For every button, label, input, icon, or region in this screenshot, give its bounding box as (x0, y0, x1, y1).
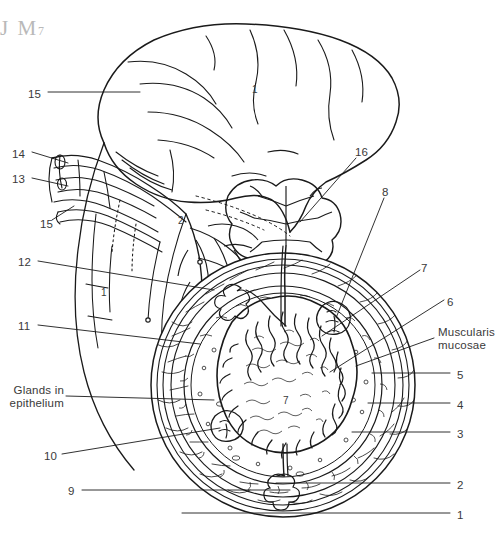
inline-label-7-lumen: 7 (283, 395, 289, 406)
label-5: 5 (457, 369, 464, 382)
mesentery-fold-group (49, 155, 186, 252)
inline-label-1-serosa: 1 (101, 287, 107, 298)
label-16: 16 (355, 146, 368, 159)
label-glands-in-epithelium: Glands inepithelium (0, 384, 64, 409)
label-12: 12 (18, 256, 31, 269)
label-11: 11 (18, 320, 30, 333)
organ-stomach-group (98, 24, 399, 232)
label-15-top: 15 (28, 88, 41, 101)
inline-label-2-mesentery: 2 (178, 215, 184, 226)
inline-label-1-organ: 1 (252, 84, 258, 95)
label-muscularis-mucosae: Muscularismucosae (438, 326, 495, 351)
leader-12 (38, 261, 214, 290)
label-3: 3 (457, 428, 464, 441)
label-9: 9 (68, 485, 75, 498)
leader-14 (32, 152, 68, 163)
leader-13 (32, 178, 68, 186)
leader-15-lower (52, 206, 74, 220)
label-7: 7 (421, 262, 428, 275)
label-14: 14 (12, 148, 25, 161)
label-1: 1 (457, 509, 464, 522)
label-6: 6 (447, 296, 454, 309)
label-8: 8 (382, 186, 389, 199)
label-muscularis-mucosae-line-1: Muscularis (438, 326, 495, 339)
gut-cross-section (151, 246, 415, 517)
label-10: 10 (44, 450, 57, 463)
label-glands-in-epithelium-line-1: Glands in (0, 384, 64, 397)
label-4: 4 (457, 399, 464, 412)
leader-16 (300, 158, 356, 222)
label-muscularis-mucosae-line-2: mucosae (438, 339, 495, 352)
label-13: 13 (12, 173, 25, 186)
label-glands-in-epithelium-line-2: epithelium (0, 397, 64, 410)
label-2: 2 (457, 479, 464, 492)
label-15-lower: 15 (40, 218, 53, 231)
